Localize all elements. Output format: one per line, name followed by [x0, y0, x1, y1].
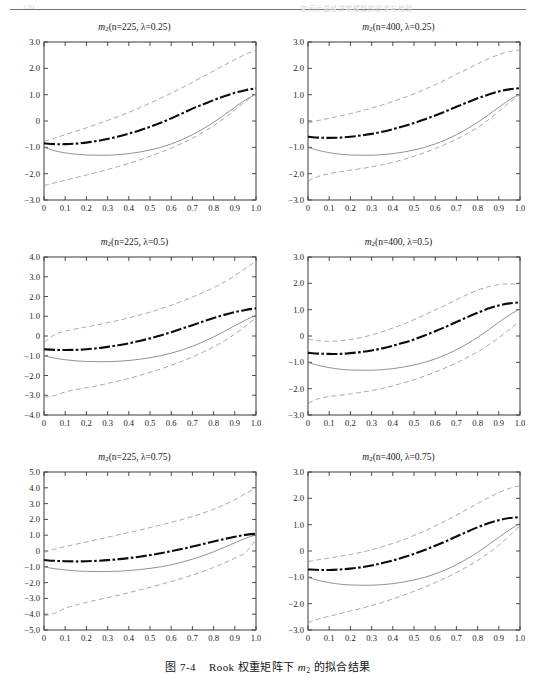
y-tick-label: 1.0	[29, 90, 40, 100]
y-tick-label: 2.0	[293, 63, 304, 73]
panel-title-symbol: m	[365, 237, 372, 247]
panel-n400-lam025: m2(n=400, λ=0.25)3.02.01.00−1.0−2.0−3.00…	[272, 22, 525, 227]
curve-upper-band	[308, 284, 520, 341]
x-tick-label: 0.1	[60, 418, 71, 428]
x-tick-label: 0.7	[187, 633, 198, 643]
panel-title-args: (n=225, λ=0.5)	[111, 237, 168, 247]
y-tick-label: −2.0	[24, 371, 40, 381]
y-tick-label: −2.0	[288, 384, 304, 394]
x-tick-label: 1.0	[515, 633, 525, 643]
x-tick-label: 0.4	[123, 203, 134, 213]
panel-title: m2(n=225, λ=0.75)	[8, 452, 261, 462]
figure-panel-grid: m2(n=225, λ=0.25)3.02.01.00−1.0−2.0−3.00…	[0, 22, 536, 652]
x-tick-label: 0.7	[451, 418, 462, 428]
x-tick-label: 0.1	[324, 633, 335, 643]
curve-fitted-mean	[308, 517, 520, 570]
page-number: · 130 ·	[18, 3, 40, 11]
curve-true-function	[44, 94, 256, 155]
x-tick-label: 0.1	[324, 418, 335, 428]
axis-frame	[44, 42, 256, 200]
x-tick-label: 0.5	[145, 633, 156, 643]
curve-lower-band	[44, 94, 256, 186]
x-tick-label: 0.9	[229, 418, 240, 428]
y-tick-label: 1.0	[293, 520, 304, 530]
x-tick-label: 0.2	[345, 633, 356, 643]
y-tick-label: −1.0	[288, 142, 304, 152]
plot-area: 3.02.01.00−1.0−2.0−3.000.10.20.30.40.50.…	[272, 466, 525, 657]
x-tick-label: 0	[306, 633, 310, 643]
curve-true-function	[44, 535, 256, 572]
x-tick-label: 0.2	[81, 418, 92, 428]
y-tick-label: 3.0	[293, 37, 304, 47]
panel-title: m2(n=225, λ=0.5)	[8, 237, 261, 247]
axis-frame	[308, 42, 520, 200]
x-tick-label: 0.4	[387, 418, 398, 428]
curve-lower-band	[308, 526, 520, 623]
curve-upper-band	[308, 50, 520, 123]
x-tick-label: 0.9	[493, 203, 504, 213]
curve-fitted-mean	[44, 88, 256, 144]
panel-title: m2(n=225, λ=0.25)	[8, 22, 261, 32]
x-tick-label: 0.7	[451, 633, 462, 643]
x-tick-label: 0.8	[208, 418, 219, 428]
panel-n400-lam05: m2(n=400, λ=0.5)3.02.01.00−1.0−2.0−3.000…	[272, 237, 525, 442]
x-tick-label: 0.5	[145, 203, 156, 213]
y-tick-label: 0	[300, 331, 304, 341]
y-tick-label: 3.0	[293, 467, 304, 477]
x-tick-label: 0.5	[409, 203, 420, 213]
plot-area: 3.02.01.00−1.0−2.0−3.000.10.20.30.40.50.…	[8, 36, 261, 227]
x-tick-label: 0	[42, 418, 46, 428]
y-tick-label: 0	[36, 331, 40, 341]
figure-page: · 130 · 空间计量经济学模型的设定与检验 m2(n=225, λ=0.25…	[0, 0, 536, 688]
y-tick-label: −2.0	[288, 169, 304, 179]
x-tick-label: 0.4	[123, 418, 134, 428]
x-tick-label: 0.6	[166, 418, 177, 428]
x-tick-label: 0.6	[166, 203, 177, 213]
x-tick-label: 0.6	[430, 203, 441, 213]
y-tick-label: −3.0	[288, 625, 304, 635]
y-tick-label: −4.0	[24, 609, 40, 619]
x-tick-label: 0.8	[208, 203, 219, 213]
y-tick-label: 0	[300, 116, 304, 126]
y-tick-label: 2.0	[293, 278, 304, 288]
plot-area: 3.02.01.00−1.0−2.0−3.000.10.20.30.40.50.…	[272, 251, 525, 442]
curve-upper-band	[44, 261, 256, 342]
caption-figure-label: 图 7-4	[165, 661, 195, 673]
x-tick-label: 0.4	[123, 633, 134, 643]
plot-area: 5.04.03.02.01.00−1.0−2.0−3.0−4.0−5.000.1…	[8, 466, 261, 657]
running-head-title: 空间计量经济学模型的设定与检验	[300, 3, 413, 13]
x-tick-label: 0.7	[187, 418, 198, 428]
x-tick-label: 0.5	[409, 418, 420, 428]
panel-title-args: (n=400, λ=0.25)	[373, 22, 435, 32]
y-tick-label: −1.0	[288, 572, 304, 582]
x-tick-label: 1.0	[251, 633, 261, 643]
panel-title-args: (n=225, λ=0.75)	[109, 452, 171, 462]
panel-title-args: (n=225, λ=0.25)	[109, 22, 171, 32]
y-tick-label: 0	[36, 546, 40, 556]
x-tick-label: 1.0	[515, 418, 525, 428]
y-tick-label: 2.0	[29, 514, 40, 524]
panel-title: m2(n=400, λ=0.5)	[272, 237, 525, 247]
axis-frame	[308, 257, 520, 415]
x-tick-label: 0.8	[208, 633, 219, 643]
y-tick-label: −2.0	[288, 599, 304, 609]
panel-title-args: (n=400, λ=0.75)	[373, 452, 435, 462]
y-tick-label: −3.0	[24, 390, 40, 400]
axis-frame	[44, 257, 256, 415]
x-tick-label: 0	[42, 633, 46, 643]
curve-fitted-mean	[308, 88, 520, 138]
y-tick-label: 3.0	[29, 499, 40, 509]
x-tick-label: 0.2	[345, 418, 356, 428]
x-tick-label: 0.7	[187, 203, 198, 213]
x-tick-label: 0.1	[60, 203, 71, 213]
y-tick-label: −3.0	[288, 410, 304, 420]
panel-n400-lam075: m2(n=400, λ=0.75)3.02.01.00−1.0−2.0−3.00…	[272, 452, 525, 657]
y-tick-label: −2.0	[24, 169, 40, 179]
y-tick-label: 4.0	[29, 252, 40, 262]
x-tick-label: 0.8	[472, 203, 483, 213]
x-tick-label: 0	[42, 203, 46, 213]
y-tick-label: 2.0	[29, 63, 40, 73]
y-tick-label: 3.0	[293, 252, 304, 262]
y-tick-label: 2.0	[29, 292, 40, 302]
plot-area: 3.02.01.00−1.0−2.0−3.000.10.20.30.40.50.…	[272, 36, 525, 227]
